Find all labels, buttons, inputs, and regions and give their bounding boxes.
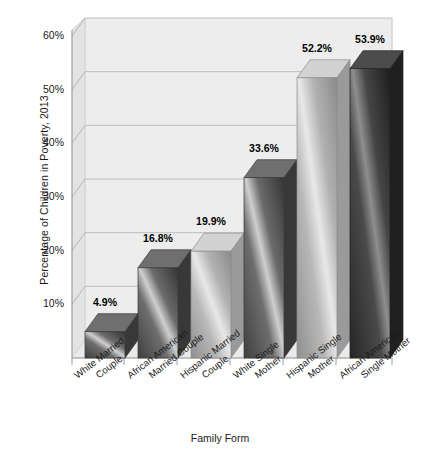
data-label: 19.9%: [180, 215, 242, 227]
data-label: 16.8%: [127, 232, 189, 244]
bar-hispanic-single-mother: [297, 60, 350, 358]
bar-white-single-mother: [244, 160, 297, 358]
data-label: 4.9%: [78, 296, 132, 308]
y-tick-label: 30%: [24, 190, 64, 202]
data-label: 33.6%: [233, 142, 295, 154]
chart-figure: Percentage of Children in Poverty, 2013: [0, 0, 440, 459]
y-tick-label: 60%: [24, 29, 64, 41]
chart-3d-walls: [0, 0, 440, 459]
y-tick-label: 40%: [24, 136, 64, 148]
y-tick-label: 50%: [24, 83, 64, 95]
bar-african-american-single-mother: [350, 51, 403, 358]
y-tick-label: 10%: [24, 297, 64, 309]
x-axis-title: Family Form: [0, 432, 440, 444]
data-label: 53.9%: [339, 33, 401, 45]
plot-area: 60% 50% 40% 30% 20% 10% 4.9% 16.8% 19.9%…: [0, 0, 440, 459]
y-tick-label: 20%: [24, 244, 64, 256]
